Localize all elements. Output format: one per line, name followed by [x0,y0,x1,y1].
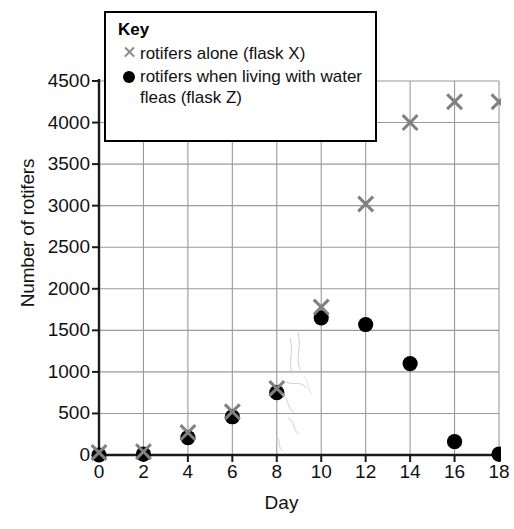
data-point [447,434,462,449]
legend: Key rotifers alone (flask X) rotifers wh… [104,11,377,142]
x-axis-tick-labels: 024681012141618 [0,462,501,486]
cross-marker-icon [118,43,140,62]
x-axis-title: Day [0,492,501,514]
x-tick-label: 12 [344,462,388,481]
y-tick-label: 1000 [26,362,90,381]
data-point [358,317,373,332]
legend-label-flask-x: rotifers alone (flask X) [140,43,305,64]
y-tick-label: 500 [26,403,90,422]
x-tick-label: 2 [121,462,165,481]
data-point [403,356,418,371]
x-tick-label: 4 [166,462,210,481]
series-markers-flask-x [92,94,501,460]
x-tick-label: 14 [388,462,432,481]
y-tick-label: 4500 [26,71,90,90]
series-markers-flask-z [91,310,501,462]
legend-entry-flask-z: rotifers when living with water fleas (f… [118,66,365,108]
legend-entry-flask-x: rotifers alone (flask X) [118,43,365,64]
legend-label-flask-z: rotifers when living with water fleas (f… [140,66,365,108]
legend-title: Key [118,20,365,40]
x-axis-title-text: Day [265,492,299,513]
y-axis-title: Number of rotifers [17,153,39,313]
data-point [491,447,501,462]
x-tick-label: 18 [477,462,514,481]
x-tick-label: 8 [255,462,299,481]
data-point [136,447,151,462]
dot-marker-icon [118,66,140,87]
y-tick-label: 4000 [26,113,90,132]
x-tick-label: 10 [299,462,343,481]
x-tick-label: 16 [433,462,477,481]
y-tick-label: 1500 [26,320,90,339]
x-tick-label: 0 [77,462,121,481]
x-tick-label: 6 [210,462,254,481]
